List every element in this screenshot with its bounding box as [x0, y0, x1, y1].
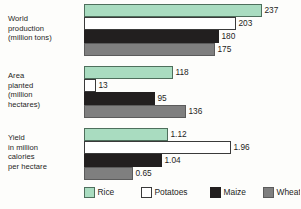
group-label-line: (million — [8, 90, 80, 100]
bar-value-rice: 1.12 — [168, 129, 187, 140]
bar-rice — [84, 66, 173, 79]
legend-swatch-potatoes-icon — [141, 187, 152, 198]
bar-row: 237 — [84, 4, 300, 17]
grouped-bar-chart: World production (million tons) 237 203 … — [0, 0, 300, 209]
bar-row: 180 — [84, 30, 300, 43]
group-label-line: World — [8, 14, 80, 24]
bar-value-potatoes: 1.96 — [231, 142, 250, 153]
group-label-line: Area — [8, 71, 80, 81]
group-label-yield: Yield in million calories per hectare — [8, 133, 80, 171]
chart-legend: Rice Potatoes Maize Wheat — [84, 186, 300, 202]
legend-item-rice: Rice — [84, 186, 114, 199]
group-label-area-planted: Area planted (million hectares) — [8, 71, 80, 109]
legend-item-maize: Maize — [210, 186, 246, 199]
legend-swatch-maize-icon — [210, 187, 221, 198]
bars-yield: 1.12 1.96 1.04 0.65 — [84, 128, 300, 180]
legend-swatch-wheat-icon — [263, 187, 274, 198]
bar-row: 13 — [84, 79, 300, 92]
group-label-line: in million — [8, 143, 80, 153]
group-label-line: planted — [8, 81, 80, 91]
legend-label-maize: Maize — [224, 187, 246, 198]
group-label-line: production — [8, 24, 80, 34]
legend-label-potatoes: Potatoes — [155, 187, 188, 198]
bar-row: 203 — [84, 17, 300, 30]
legend-item-potatoes: Potatoes — [141, 186, 188, 199]
legend-label-rice: Rice — [98, 187, 115, 198]
bar-maize — [84, 30, 219, 43]
bar-row: 136 — [84, 105, 300, 118]
bar-rice — [84, 128, 168, 141]
bar-value-rice: 118 — [173, 67, 189, 78]
group-label-line: (million tons) — [8, 33, 80, 43]
bar-row: 175 — [84, 43, 300, 56]
group-label-line: per hectare — [8, 162, 80, 172]
bar-maize — [84, 154, 162, 167]
bar-value-rice: 237 — [262, 5, 278, 16]
group-label-world-production: World production (million tons) — [8, 14, 80, 43]
bar-value-maize: 1.04 — [162, 155, 181, 166]
group-label-line: Yield — [8, 133, 80, 143]
bar-value-wheat: 0.65 — [133, 168, 152, 179]
bar-row: 118 — [84, 66, 300, 79]
group-label-line: hectares) — [8, 100, 80, 110]
legend-swatch-rice-icon — [84, 187, 95, 198]
bar-row: 1.96 — [84, 141, 300, 154]
bar-row: 1.12 — [84, 128, 300, 141]
bar-wheat — [84, 43, 215, 56]
bar-value-potatoes: 13 — [96, 80, 108, 91]
legend-label-wheat: Wheat — [277, 187, 301, 198]
bar-rice — [84, 4, 262, 17]
bar-value-potatoes: 203 — [236, 18, 252, 29]
bar-maize — [84, 92, 155, 105]
bar-row: 1.04 — [84, 154, 300, 167]
bar-wheat — [84, 167, 133, 180]
bar-potatoes — [84, 141, 231, 154]
bar-value-maize: 180 — [219, 31, 235, 42]
bar-row: 0.65 — [84, 167, 300, 180]
bar-potatoes — [84, 17, 236, 30]
bar-value-wheat: 175 — [215, 44, 231, 55]
bars-world-production: 237 203 180 175 — [84, 4, 300, 56]
bars-area-planted: 118 13 95 136 — [84, 66, 300, 118]
bar-value-maize: 95 — [155, 93, 167, 104]
bar-value-wheat: 136 — [186, 106, 202, 117]
legend-item-wheat: Wheat — [263, 186, 300, 199]
group-label-line: calories — [8, 152, 80, 162]
bar-row: 95 — [84, 92, 300, 105]
bar-wheat — [84, 105, 186, 118]
bar-potatoes — [84, 79, 96, 92]
